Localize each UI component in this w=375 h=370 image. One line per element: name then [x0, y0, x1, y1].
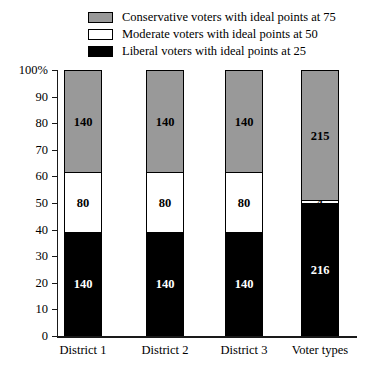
bar-segment-value: 80 [238, 197, 251, 209]
y-axis-tick-label: 60 [0, 170, 48, 182]
legend-swatch-moderate-icon [88, 29, 113, 40]
y-axis-tick [52, 256, 57, 257]
bar-segment-moderate[interactable]: 80 [225, 173, 263, 232]
x-axis-label-4: Voter types [275, 344, 365, 357]
x-axis-label-1: District 1 [38, 344, 128, 357]
bar-segment-liberal[interactable]: 140 [64, 233, 102, 336]
bar-segment-moderate[interactable]: 80 [146, 173, 184, 232]
x-axis-label-2: District 2 [120, 344, 210, 357]
y-axis-tick [52, 176, 57, 177]
bar-segment-value: 140 [156, 278, 175, 290]
bar-3[interactable]: 14080140 [225, 70, 263, 336]
bar-segment-value: 80 [77, 197, 90, 209]
y-axis-tick-label: 20 [0, 277, 48, 289]
bar-segment-value: 216 [311, 264, 330, 276]
y-axis-tick [52, 150, 57, 151]
bar-1[interactable]: 14080140 [64, 70, 102, 336]
bar-segment-conservative[interactable]: 215 [301, 70, 339, 201]
bar-4[interactable]: 2164215 [301, 70, 339, 336]
y-axis-tick [52, 70, 57, 71]
y-axis-tick [52, 203, 57, 204]
bar-segment-value: 215 [311, 130, 330, 142]
x-axis-line [57, 336, 357, 338]
chart-legend: Conservative voters with ideal points at… [88, 9, 368, 60]
y-axis-tick [52, 336, 57, 337]
plot-area: 0102030405060708090100% 1408014014080140… [57, 70, 357, 336]
y-axis-tick-label: 10 [0, 303, 48, 315]
bar-segment-liberal[interactable]: 216 [301, 204, 339, 336]
legend-label-liberal: Liberal voters with ideal points at 25 [122, 45, 306, 58]
bar-segment-moderate[interactable]: 80 [64, 173, 102, 232]
y-axis-tick-label: 100% [0, 64, 48, 76]
legend-item-liberal: Liberal voters with ideal points at 25 [88, 43, 368, 59]
y-axis-tick-label: 80 [0, 117, 48, 129]
y-axis-tick-label: 40 [0, 224, 48, 236]
legend-label-moderate: Moderate voters with ideal points at 50 [122, 28, 318, 41]
y-axis-tick [52, 97, 57, 98]
bar-2[interactable]: 14080140 [146, 70, 184, 336]
y-axis-tick-label: 90 [0, 91, 48, 103]
bar-segment-conservative[interactable]: 140 [225, 70, 263, 173]
bar-segment-value: 140 [74, 116, 93, 128]
legend-item-moderate: Moderate voters with ideal points at 50 [88, 26, 368, 42]
bar-segment-value: 140 [235, 278, 254, 290]
bar-segment-value: 140 [74, 278, 93, 290]
y-axis-line [57, 70, 58, 336]
bar-segment-liberal[interactable]: 140 [225, 233, 263, 336]
legend-swatch-conservative-icon [88, 12, 113, 23]
y-axis-tick-label: 70 [0, 144, 48, 156]
legend-item-conservative: Conservative voters with ideal points at… [88, 9, 368, 25]
y-axis-tick [52, 230, 57, 231]
stacked-bar-chart: Conservative voters with ideal points at… [0, 0, 375, 370]
legend-label-conservative: Conservative voters with ideal points at… [122, 11, 336, 24]
bar-segment-value: 80 [159, 197, 172, 209]
bar-segment-moderate[interactable]: 4 [301, 201, 339, 203]
y-axis-tick-label: 0 [0, 330, 48, 342]
bar-segment-value: 140 [156, 116, 175, 128]
y-axis-tick [52, 309, 57, 310]
y-axis-tick-label: 30 [0, 250, 48, 262]
y-axis-tick [52, 123, 57, 124]
legend-swatch-liberal-icon [88, 46, 113, 57]
bar-segment-conservative[interactable]: 140 [64, 70, 102, 173]
y-axis-tick-label: 50 [0, 197, 48, 209]
y-axis-tick [52, 283, 57, 284]
bar-segment-value: 140 [235, 116, 254, 128]
bar-segment-liberal[interactable]: 140 [146, 233, 184, 336]
bar-segment-conservative[interactable]: 140 [146, 70, 184, 173]
